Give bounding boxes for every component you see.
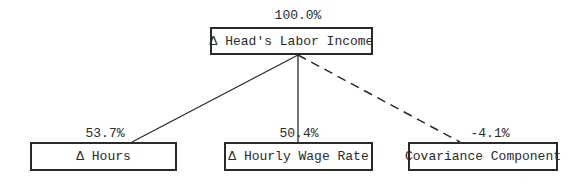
wage-rate-percent: 50.4% [264,126,334,141]
covariance-percent: -4.1% [455,126,525,141]
hours-percent: 53.7% [70,126,140,141]
node-hourly-wage-rate: Δ Hourly Wage Rate [224,142,373,171]
node-head-labor-income: Δ Head's Labor Income [210,27,373,55]
root-percent: 100.0% [248,8,348,23]
node-covariance-component: Covariance Component [408,142,558,171]
node-hours: Δ Hours [30,142,177,171]
